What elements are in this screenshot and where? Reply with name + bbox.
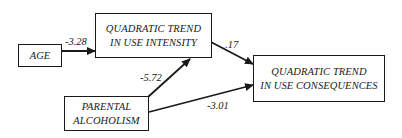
node-parental-line1: PARENTAL — [82, 100, 131, 114]
coefficient-parental-to-consequences: -3.01 — [207, 101, 229, 112]
edge-parental-to-consequences — [149, 85, 253, 112]
node-consequences-line1: QUADRATIC TREND — [271, 65, 366, 79]
coefficient-parental-to-intensity: -5.72 — [140, 73, 162, 84]
node-consequences-line2: IN USE CONSEQUENCES — [260, 79, 377, 93]
node-intensity-line1: QUADRATIC TREND — [106, 22, 201, 36]
path-diagram: AGE QUADRATIC TREND IN USE INTENSITY QUA… — [0, 0, 402, 138]
node-quadratic-trend-consequences: QUADRATIC TREND IN USE CONSEQUENCES — [253, 55, 385, 102]
coefficient-age-to-intensity: -3.28 — [65, 37, 87, 48]
node-intensity-line2: IN USE INTENSITY — [110, 36, 197, 50]
node-parental-line2: ALCOHOLISM — [73, 114, 139, 128]
node-quadratic-trend-intensity: QUADRATIC TREND IN USE INTENSITY — [95, 13, 212, 58]
node-age-label: AGE — [30, 49, 51, 63]
coefficient-intensity-to-consequences: .17 — [225, 40, 238, 51]
node-parental-alcoholism: PARENTAL ALCOHOLISM — [64, 96, 149, 131]
node-age: AGE — [18, 44, 62, 67]
